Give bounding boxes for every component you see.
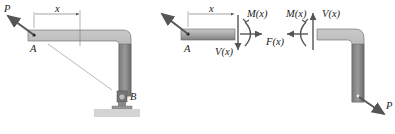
- label-point-a: A: [30, 44, 36, 55]
- label-point-a-cut: A: [184, 44, 190, 55]
- force-p-arrow-cut: [162, 14, 188, 34]
- force-p-arrow-right: [359, 97, 384, 114]
- label-force-p-right: P: [386, 101, 392, 112]
- force-p-arrow: [8, 16, 34, 35]
- label-moment-left: M(x): [247, 9, 267, 20]
- pin-b-circle: [119, 94, 125, 100]
- right-segment-fbd: [287, 13, 384, 114]
- label-force-p: P: [4, 4, 10, 15]
- label-shear-left: V(x): [215, 47, 233, 58]
- label-axial-f: F(x): [266, 37, 284, 48]
- support-base-plate: [112, 106, 132, 109]
- label-shear-right: V(x): [322, 9, 340, 20]
- label-distance-x: x: [55, 4, 60, 15]
- pin-hole-b: [357, 95, 360, 98]
- guide-line: [48, 44, 112, 90]
- l-bracket-assembly: [8, 10, 140, 117]
- ground: [94, 109, 140, 117]
- free-body-diagram-figure: P x A B x A M(x) V(x) F(x) M(x) V(x) P: [0, 0, 395, 134]
- label-moment-right: M(x): [286, 9, 306, 20]
- right-segment-vertical-leg: [352, 44, 364, 102]
- l-bracket-member: [28, 30, 131, 96]
- label-point-b: B: [130, 92, 136, 103]
- diagram-svg: [0, 0, 395, 134]
- label-distance-x-cut: x: [209, 4, 214, 15]
- bracket-vertical-leg: [119, 44, 131, 96]
